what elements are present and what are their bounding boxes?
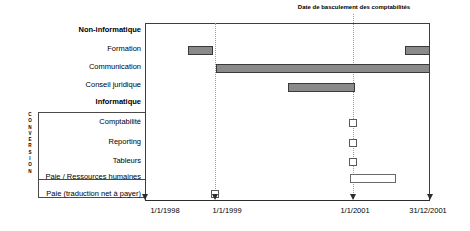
gridline-1-1-1999 [215,23,216,201]
row-label-paie-traduction: Paie (traduction net à payer) [2,189,145,199]
row-label-paie-ressources-humaines: Paie / Ressources humaines [2,172,145,182]
row-label-comptabilite: Comptabilité [2,117,145,127]
bar-communication [216,64,430,73]
marker-reporting [349,139,357,147]
marker-comptabilite [349,119,357,127]
axis-tick-arrow-1-1-2001 [350,194,356,200]
row-label-tableurs: Tableurs [2,156,145,166]
row-label-formation: Formation [2,44,145,54]
bar-formation-1 [188,46,213,55]
row-label-communication: Communication [2,62,145,72]
axis-tick-arrow-31-12-2001 [427,194,433,200]
row-label-informatique: Informatique [2,97,145,107]
bar-conseil-juridique [288,83,355,92]
axis-tick-label-31-12-2001: 31/12/2001 [409,206,447,216]
axis-tick-arrow-1-1-1998 [142,194,148,200]
axis-tick-label-1-1-1999: 1/1/1999 [212,206,241,216]
row-label-reporting: Reporting [2,137,145,147]
bar-formation-2 [405,46,430,55]
marker-tableurs [349,158,357,166]
row-label-column: CONVERSION Non-informatique Formation Co… [0,0,145,231]
gridline-1-1-2001 [353,14,354,201]
row-label-non-informatique: Non-informatique [2,25,145,35]
row-label-conseil-juridique: Conseil juridique [2,80,145,90]
chart-annotation: Date de basculement des comptabilités [284,3,424,11]
gantt-chart: Date de basculement des comptabilités CO… [0,0,470,231]
axis-tick-arrow-1-1-1999 [212,194,218,200]
bar-paie-ressources-humaines [350,174,396,183]
axis-tick-label-1-1-2001: 1/1/2001 [340,206,369,216]
x-axis-line [145,200,430,201]
axis-tick-label-1-1-1998: 1/1/1998 [150,206,179,216]
